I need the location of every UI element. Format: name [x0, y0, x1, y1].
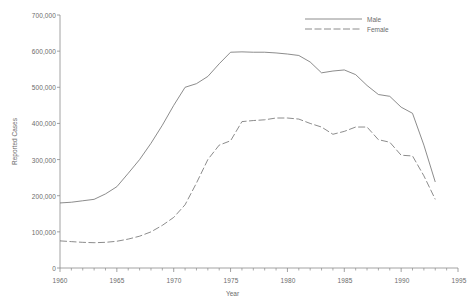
x-axis-major-ticks: [60, 268, 458, 272]
line-series-male: [60, 52, 435, 203]
y-axis-ticks: [57, 15, 60, 268]
axis-lines: [60, 15, 458, 268]
line-series-female: [60, 118, 435, 243]
